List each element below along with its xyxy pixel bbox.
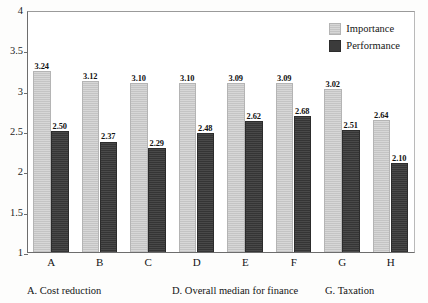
bar-b-performance xyxy=(100,142,118,253)
y-axis-tick-mark xyxy=(24,93,29,94)
y-axis-tick-mark xyxy=(24,52,29,53)
bar-h-performance xyxy=(391,163,409,252)
bar-value-label: 2.10 xyxy=(386,154,414,163)
y-axis-tick-mark xyxy=(24,173,29,174)
bar-c-performance xyxy=(148,148,166,252)
bar-a-importance xyxy=(33,71,51,252)
bar-value-label: 3.12 xyxy=(77,72,105,81)
footnote-item-a: A. Cost reduction xyxy=(27,284,101,297)
y-axis-tick-mark xyxy=(24,254,29,255)
importance-swatch xyxy=(329,23,341,35)
bar-value-label: 2.29 xyxy=(143,139,171,148)
bar-e-performance xyxy=(245,121,263,252)
bar-g-performance xyxy=(342,130,360,252)
footnote-item-d: D. Overall median for finance xyxy=(172,284,298,297)
plot-area: 3.242.503.122.373.102.293.102.483.092.62… xyxy=(27,11,415,253)
bar-value-label: 3.10 xyxy=(125,74,153,83)
bar-value-label: 2.50 xyxy=(46,122,74,131)
chart-legend: Importance Performance xyxy=(329,22,400,55)
y-axis-tick-label: 3 xyxy=(0,87,23,97)
x-axis-label-e: E xyxy=(221,256,270,268)
legend-item-importance: Importance xyxy=(329,22,400,37)
bar-g-importance xyxy=(324,89,342,252)
legend-label-importance: Importance xyxy=(346,22,394,37)
bar-value-label: 3.09 xyxy=(222,74,250,83)
bar-f-performance xyxy=(294,116,312,252)
legend-item-performance: Performance xyxy=(329,39,400,54)
x-axis-label-d: D xyxy=(173,256,222,268)
x-axis-label-f: F xyxy=(270,256,319,268)
y-axis-tick-label: 2 xyxy=(0,167,23,177)
bar-value-label: 3.10 xyxy=(174,74,202,83)
bar-d-importance xyxy=(179,83,197,252)
y-axis-tick-label: 4 xyxy=(0,6,23,16)
bar-e-importance xyxy=(227,83,245,252)
bar-b-importance xyxy=(82,81,100,252)
footnote-item-g: G. Taxation xyxy=(325,284,374,297)
bar-value-label: 2.62 xyxy=(240,112,268,121)
bar-value-label: 3.24 xyxy=(28,62,56,71)
bar-value-label: 2.68 xyxy=(289,107,317,116)
bar-h-importance xyxy=(373,120,391,252)
cut-off-caption-sliver xyxy=(0,0,428,6)
x-axis-label-b: B xyxy=(76,256,125,268)
x-axis-label-c: C xyxy=(124,256,173,268)
bar-d-performance xyxy=(197,133,215,252)
performance-swatch xyxy=(329,40,341,52)
y-axis-tick-label: 1 xyxy=(0,248,23,258)
bar-value-label: 3.09 xyxy=(271,74,299,83)
bar-value-label: 2.64 xyxy=(368,111,396,120)
bar-c-importance xyxy=(130,83,148,252)
x-axis-label-g: G xyxy=(318,256,367,268)
bar-value-label: 2.37 xyxy=(95,132,123,141)
bar-value-label: 3.02 xyxy=(319,80,347,89)
y-axis-tick-label: 3.5 xyxy=(0,46,23,56)
bar-value-label: 2.48 xyxy=(192,124,220,133)
x-axis-label-a: A xyxy=(27,256,76,268)
y-axis-tick-mark xyxy=(24,133,29,134)
bar-chart: 3.242.503.122.373.102.293.102.483.092.62… xyxy=(0,0,428,303)
x-axis-label-h: H xyxy=(367,256,416,268)
y-axis-tick-label: 2.5 xyxy=(0,127,23,137)
y-axis-tick-label: 1.5 xyxy=(0,208,23,218)
bar-a-performance xyxy=(51,131,69,252)
legend-label-performance: Performance xyxy=(346,39,400,54)
y-axis-tick-mark xyxy=(24,214,29,215)
bar-value-label: 2.51 xyxy=(337,121,365,130)
